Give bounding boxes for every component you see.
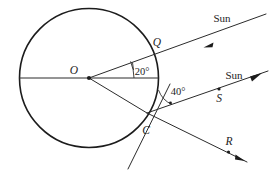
lower-sun-ray — [147, 71, 268, 113]
geometry-figure: O Q C S R Sun Sun 20° 40° — [0, 0, 274, 174]
label-center-o: O — [70, 64, 79, 76]
label-angle-40: 40° — [171, 86, 186, 97]
label-point-s: S — [216, 92, 222, 104]
arrow-right-up-icon — [250, 73, 262, 82]
arrow-right-down-icon — [235, 155, 245, 162]
oc-radius-line — [89, 78, 147, 113]
label-point-r: R — [224, 135, 232, 147]
arrow-left-down-icon — [204, 43, 214, 48]
label-point-q: Q — [153, 36, 162, 48]
figure-canvas: O Q C S R Sun Sun 20° 40° — [0, 0, 274, 174]
point-r-dot — [227, 150, 230, 153]
point-s-dot — [217, 87, 220, 90]
angle-tick-40 — [169, 102, 172, 105]
label-point-c: C — [142, 124, 150, 136]
label-sun-upper: Sun — [213, 12, 231, 24]
label-angle-20: 20° — [135, 66, 150, 77]
center-point-dot — [87, 76, 91, 80]
label-sun-lower: Sun — [225, 69, 243, 81]
